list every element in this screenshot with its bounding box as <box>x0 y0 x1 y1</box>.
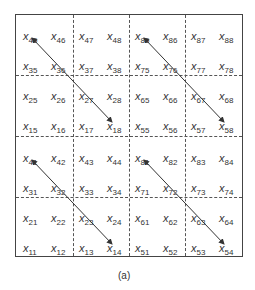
variable-x85: x85 <box>135 31 149 42</box>
variable-x12: x12 <box>51 243 65 254</box>
variable-x75: x75 <box>135 61 149 72</box>
variable-x52: x52 <box>163 243 177 254</box>
variable-x22: x22 <box>51 213 65 224</box>
variable-x57: x57 <box>191 121 205 132</box>
variable-x58: x58 <box>219 121 233 132</box>
variable-x67: x67 <box>191 91 205 102</box>
variable-x53: x53 <box>191 243 205 254</box>
variable-x45: x45 <box>23 31 37 42</box>
variable-x65: x65 <box>135 91 149 102</box>
variable-x66: x66 <box>163 91 177 102</box>
variable-x83: x83 <box>191 153 205 164</box>
variable-x37: x37 <box>79 61 93 72</box>
variable-x46: x46 <box>51 31 65 42</box>
variable-x82: x82 <box>163 153 177 164</box>
variable-x76: x76 <box>163 61 177 72</box>
variable-x61: x61 <box>135 213 149 224</box>
variable-x43: x43 <box>79 153 93 164</box>
variable-x11: x11 <box>23 243 37 254</box>
variable-x81: x81 <box>135 153 149 164</box>
variable-x42: x42 <box>51 153 65 164</box>
variable-x17: x17 <box>79 121 93 132</box>
variable-x87: x87 <box>191 31 205 42</box>
variable-x54: x54 <box>219 243 233 254</box>
variable-x28: x28 <box>107 91 121 102</box>
variable-x31: x31 <box>23 183 37 194</box>
variable-x63: x63 <box>191 213 205 224</box>
variable-x55: x55 <box>135 121 149 132</box>
variable-x36: x36 <box>51 61 65 72</box>
variable-x74: x74 <box>219 183 233 194</box>
variable-x48: x48 <box>107 31 121 42</box>
variable-x27: x27 <box>79 91 93 102</box>
variable-x73: x73 <box>191 183 205 194</box>
variable-x33: x33 <box>79 183 93 194</box>
variable-x41: x41 <box>23 153 37 164</box>
variable-x88: x88 <box>219 31 233 42</box>
variable-x84: x84 <box>219 153 233 164</box>
variable-x68: x68 <box>219 91 233 102</box>
variable-x34: x34 <box>107 183 121 194</box>
variable-grid: x45x46x47x48x85x86x87x88x35x36x37x38x75x… <box>15 14 243 257</box>
variable-x24: x24 <box>107 213 121 224</box>
variable-x77: x77 <box>191 61 205 72</box>
variable-x78: x78 <box>219 61 233 72</box>
variable-x44: x44 <box>107 153 121 164</box>
grid-divider-horizontal <box>16 136 242 137</box>
variable-x56: x56 <box>163 121 177 132</box>
variable-x32: x32 <box>51 183 65 194</box>
variable-x26: x26 <box>51 91 65 102</box>
variable-x23: x23 <box>79 213 93 224</box>
variable-x64: x64 <box>219 213 233 224</box>
variable-x21: x21 <box>23 213 37 224</box>
variable-x14: x14 <box>107 243 121 254</box>
variable-x72: x72 <box>163 183 177 194</box>
grid-divider-horizontal <box>16 197 242 198</box>
variable-x15: x15 <box>23 121 37 132</box>
variable-x86: x86 <box>163 31 177 42</box>
variable-x35: x35 <box>23 61 37 72</box>
grid-divider-horizontal <box>16 75 242 76</box>
variable-x38: x38 <box>107 61 121 72</box>
variable-x18: x18 <box>107 121 121 132</box>
variable-x13: x13 <box>79 243 93 254</box>
variable-x47: x47 <box>79 31 93 42</box>
figure-caption: (a) <box>118 270 130 281</box>
variable-x51: x51 <box>135 243 149 254</box>
variable-x16: x16 <box>51 121 65 132</box>
variable-x62: x62 <box>163 213 177 224</box>
variable-x71: x71 <box>135 183 149 194</box>
variable-x25: x25 <box>23 91 37 102</box>
